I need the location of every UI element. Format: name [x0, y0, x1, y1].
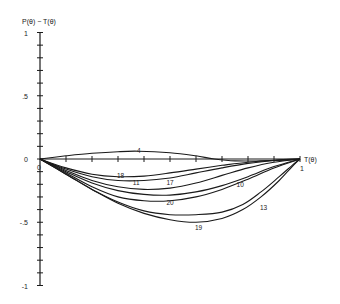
curve-label-4: 4 [137, 147, 141, 154]
curve-label-17: 17 [166, 179, 174, 186]
y-axis-label: P(θ) − T(θ) [22, 18, 56, 26]
y-tick-label: -1 [22, 283, 28, 290]
axes: 1.50-.5-101 [20, 30, 304, 290]
x-tick-label-0: 0 [37, 164, 41, 171]
curve-label-19: 19 [195, 224, 203, 231]
curve-label-11: 11 [133, 179, 140, 186]
curve-label-10: 10 [237, 181, 245, 188]
y-tick-label: -.5 [20, 219, 28, 226]
line-chart: 1.50-.5-101 418111710201319 P(θ) − T(θ) … [0, 0, 340, 304]
y-tick-label: 0 [24, 156, 28, 163]
curve-label-13: 13 [260, 204, 268, 211]
curve-label-18: 18 [117, 172, 125, 179]
y-tick-label: 1 [24, 30, 28, 37]
chart-container: 1.50-.5-101 418111710201319 P(θ) − T(θ) … [0, 0, 340, 304]
x-axis-label: T(θ) [304, 156, 317, 164]
curve-19 [40, 159, 300, 222]
x-tick-label-1: 1 [300, 165, 304, 172]
y-tick-label: .5 [22, 93, 28, 100]
curve-label-20: 20 [166, 199, 174, 206]
